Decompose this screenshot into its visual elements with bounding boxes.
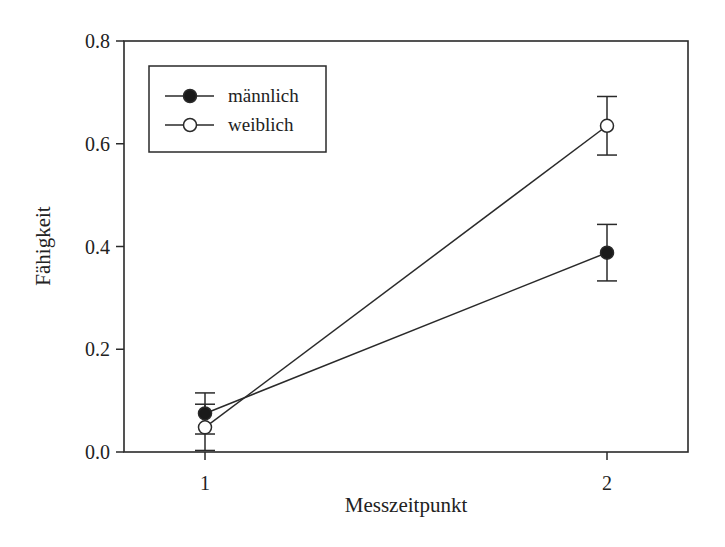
filled-circle-marker (199, 407, 212, 420)
y-tick-label: 0.6 (85, 133, 110, 155)
legend-box (149, 66, 326, 152)
y-tick-label: 0.8 (85, 30, 110, 52)
x-tick-label: 1 (200, 472, 210, 494)
open-circle-marker (199, 421, 212, 434)
legend-filled-circle-icon (184, 90, 197, 103)
filled-circle-marker (601, 246, 614, 259)
chart: 0.00.20.40.60.8 12 männlichweiblich Mess… (0, 0, 725, 547)
y-tick-label: 0.0 (85, 441, 110, 463)
y-axis-label: Fähigkeit (31, 206, 55, 285)
y-tick-label: 0.2 (85, 338, 110, 360)
legend-open-circle-icon (184, 119, 197, 132)
x-axis: 12 (200, 452, 612, 494)
y-axis: 0.00.20.40.60.8 (85, 30, 124, 463)
legend-label: männlich (228, 85, 299, 106)
legend: männlichweiblich (149, 66, 326, 152)
series-maennlich (195, 224, 617, 434)
open-circle-marker (601, 119, 614, 132)
x-axis-label: Messzeitpunkt (345, 493, 468, 517)
y-tick-label: 0.4 (85, 236, 110, 258)
legend-label: weiblich (228, 114, 294, 135)
x-tick-label: 2 (602, 472, 612, 494)
